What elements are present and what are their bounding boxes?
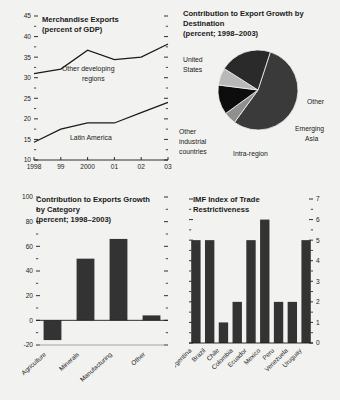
x-category-label: Other [130, 350, 147, 366]
x-axis-category-labels: AgricultureMineralsManufacturingOther [20, 350, 147, 384]
bar-brazil [205, 240, 214, 343]
x-category-label: Brazil [190, 347, 206, 363]
bars [191, 220, 311, 343]
bars [44, 239, 161, 340]
y-tick-label: 45 [24, 12, 32, 19]
x-category-label: Manufacturing [78, 350, 114, 383]
y-tick-label: -20 [23, 341, 33, 348]
bar-venezuela [288, 302, 297, 343]
pie-title-line1: Contribution to Export Growth by [183, 9, 304, 18]
y-axis-tick-labels: 01234567 [316, 195, 320, 346]
bar-minerals [77, 259, 95, 321]
pie-subtitle: (percent; 1998–2003) [183, 29, 259, 38]
y-tick-label: 20 [26, 292, 34, 299]
pie-slices [218, 50, 298, 130]
bar-manufacturing [110, 239, 128, 320]
bar-agriculture [44, 320, 62, 340]
y-tick-label: 100 [22, 193, 33, 200]
y-axis-tick-labels: 1015202530354045 [24, 12, 32, 163]
chart-subtitle: (percent of GDP) [42, 25, 103, 34]
bar-other [143, 315, 161, 320]
pie-label-emerging-asia-line1: Emerging [295, 125, 324, 133]
x-tick-label: 01 [111, 163, 119, 170]
y-axis-tick-labels: -20020406080100 [22, 193, 33, 348]
y-tick-label: 1 [316, 319, 320, 326]
y-tick-label: 5 [316, 237, 320, 244]
x-tick-label: 99 [57, 163, 65, 170]
x-tick-label: 03 [164, 163, 172, 170]
x-category-label: Agriculture [20, 350, 48, 377]
y-tick-label: 7 [316, 195, 320, 202]
bar-peru [274, 302, 283, 343]
y-tick-label: 60 [26, 243, 34, 250]
chart-title: Merchandise Exports [42, 15, 119, 24]
pie-title-line2: Destination [183, 19, 225, 28]
chart-exports-growth-by-category: Contribution to Exports Growth by Catego… [0, 185, 175, 400]
destination-pie-svg: Contribution to Export Growth by Destina… [175, 0, 340, 185]
y-tick-label: 0 [29, 317, 33, 324]
x-axis-tick-labels: 1998992000010203 [27, 163, 172, 170]
bar-uruguay [301, 240, 310, 343]
chart-merchandise-exports: 1015202530354045 1998992000010203 Mercha… [0, 0, 175, 185]
imf-index-bar-svg: IMF Index of Trade Restrictiveness 01234… [175, 185, 340, 400]
y-tick-label: 35 [24, 54, 32, 61]
y-tick-label: 3 [316, 278, 320, 285]
x-tick-label: 2000 [80, 163, 95, 170]
x-category-label: Minerals [58, 351, 81, 372]
bar-ecuador [246, 240, 255, 343]
imf-title-line1: IMF Index of Trade [193, 195, 260, 204]
figure-panel-grid: 1015202530354045 1998992000010203 Mercha… [0, 0, 340, 400]
series-label-other-developing-line2: regions [82, 75, 105, 83]
category-title-line1: Contribution to Exports Growth [36, 195, 150, 204]
pie-label-intra-region: Intra-region [233, 150, 268, 158]
y-tick-label: 4 [316, 257, 320, 264]
y-tick-label: 0 [316, 339, 320, 346]
pie-label-united-states-line1: United [183, 56, 203, 63]
x-axis-category-labels: ArgentinaBrazilChileColombiaEcuadorMexic… [175, 346, 304, 373]
y-tick-label: 30 [24, 74, 32, 81]
merchandise-exports-svg: 1015202530354045 1998992000010203 Mercha… [0, 0, 175, 185]
category-bar-svg: Contribution to Exports Growth by Catego… [0, 185, 175, 400]
bar-argentina [191, 240, 200, 343]
series-label-other-developing-line1: Other developing [62, 65, 115, 73]
pie-label-other-industrial-line1: Other [179, 128, 197, 135]
category-subtitle: (percent; 1998–2003) [36, 215, 112, 224]
pie-label-united-states-line2: States [183, 66, 203, 73]
y-tick-label: 2 [316, 298, 320, 305]
pie-label-other-industrial-line3: countries [179, 148, 207, 155]
category-title-line2: by Category [36, 205, 81, 214]
y-tick-label: 20 [24, 115, 32, 122]
chart-export-growth-by-destination: Contribution to Export Growth by Destina… [175, 0, 340, 185]
bar-colombia [233, 302, 242, 343]
x-tick-label: 02 [138, 163, 146, 170]
pie-label-emerging-asia-line2: Asia [305, 135, 318, 142]
series-label-latin-america: Latin America [70, 134, 112, 141]
y-tick-label: 80 [26, 218, 34, 225]
y-tick-label: 15 [24, 136, 32, 143]
chart-imf-index-trade-restrictiveness: IMF Index of Trade Restrictiveness 01234… [175, 185, 340, 400]
y-tick-label: 25 [24, 95, 32, 102]
pie-label-other-industrial-line2: industrial [179, 138, 207, 145]
y-tick-label: 40 [24, 33, 32, 40]
y-tick-label: 40 [26, 267, 34, 274]
y-tick-label: 6 [316, 216, 320, 223]
pie-label-other: Other [307, 98, 325, 105]
bar-chile [219, 322, 228, 343]
imf-title-line2: Restrictiveness [193, 205, 249, 214]
x-tick-label: 1998 [27, 163, 42, 170]
bar-mexico [260, 220, 269, 343]
